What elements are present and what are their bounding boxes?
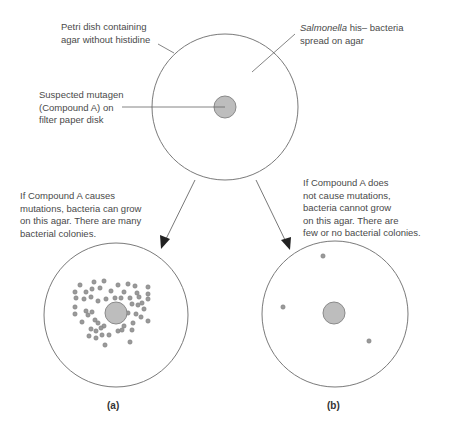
case-a-line3: on this agar. There are many — [20, 215, 141, 228]
leader-line-petri — [158, 44, 174, 53]
salmonella-label: Salmonella his– bacteria spread on agar — [300, 22, 404, 47]
filter-disk-b — [323, 302, 345, 324]
case-b-line5: few or no bacterial colonies. — [303, 227, 421, 240]
case-b-line3: bacteria cannot grow — [303, 202, 421, 215]
caption-a: (a) — [107, 400, 119, 411]
petri-dish-label-line2: agar without histidine — [61, 34, 150, 47]
case-a-description: If Compound A causes mutations, bacteria… — [20, 190, 141, 240]
salmonella-strain: his– bacteria — [347, 22, 404, 33]
case-b-line2: not cause mutations, — [303, 190, 421, 203]
arrowhead-left-icon — [160, 235, 170, 249]
mutagen-label-line1: Suspected mutagen — [39, 89, 124, 102]
case-b-line4: on this agar. There are — [303, 215, 421, 228]
case-b-line1: If Compound A does — [303, 177, 421, 190]
leader-line-salmonella — [252, 34, 295, 72]
arrowhead-right-icon — [281, 237, 291, 250]
arrow-left — [165, 180, 195, 241]
salmonella-label-line2: spread on agar — [300, 35, 404, 48]
caption-b: (b) — [327, 400, 340, 411]
petri-dish-label-line1: Petri dish containing — [61, 21, 150, 34]
filter-disk-a — [105, 302, 127, 324]
mutagen-label-line2: (Compound A) on — [39, 102, 124, 115]
case-a-line4: bacterial colonies. — [20, 228, 141, 241]
salmonella-species-name: Salmonella — [300, 22, 347, 33]
case-a-line1: If Compound A causes — [20, 190, 141, 203]
mutagen-label-line3: filter paper disk — [39, 114, 124, 127]
salmonella-label-line1: Salmonella his– bacteria — [300, 22, 404, 35]
colonies-b — [281, 254, 371, 343]
case-a-line2: mutations, bacteria can grow — [20, 203, 141, 216]
petri-dish-label: Petri dish containing agar without histi… — [61, 21, 150, 46]
arrow-right — [256, 180, 286, 242]
mutagen-label: Suspected mutagen (Compound A) on filter… — [39, 89, 124, 127]
case-b-description: If Compound A does not cause mutations, … — [303, 177, 421, 240]
